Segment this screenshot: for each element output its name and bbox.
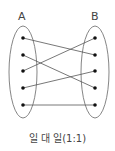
set-a-elements [21,36,25,107]
mapping-diagram [0,0,115,151]
diagram-caption: 일 대 일(1:1) [0,130,115,145]
connection-lines [23,38,95,105]
set-b-elements [93,36,97,107]
